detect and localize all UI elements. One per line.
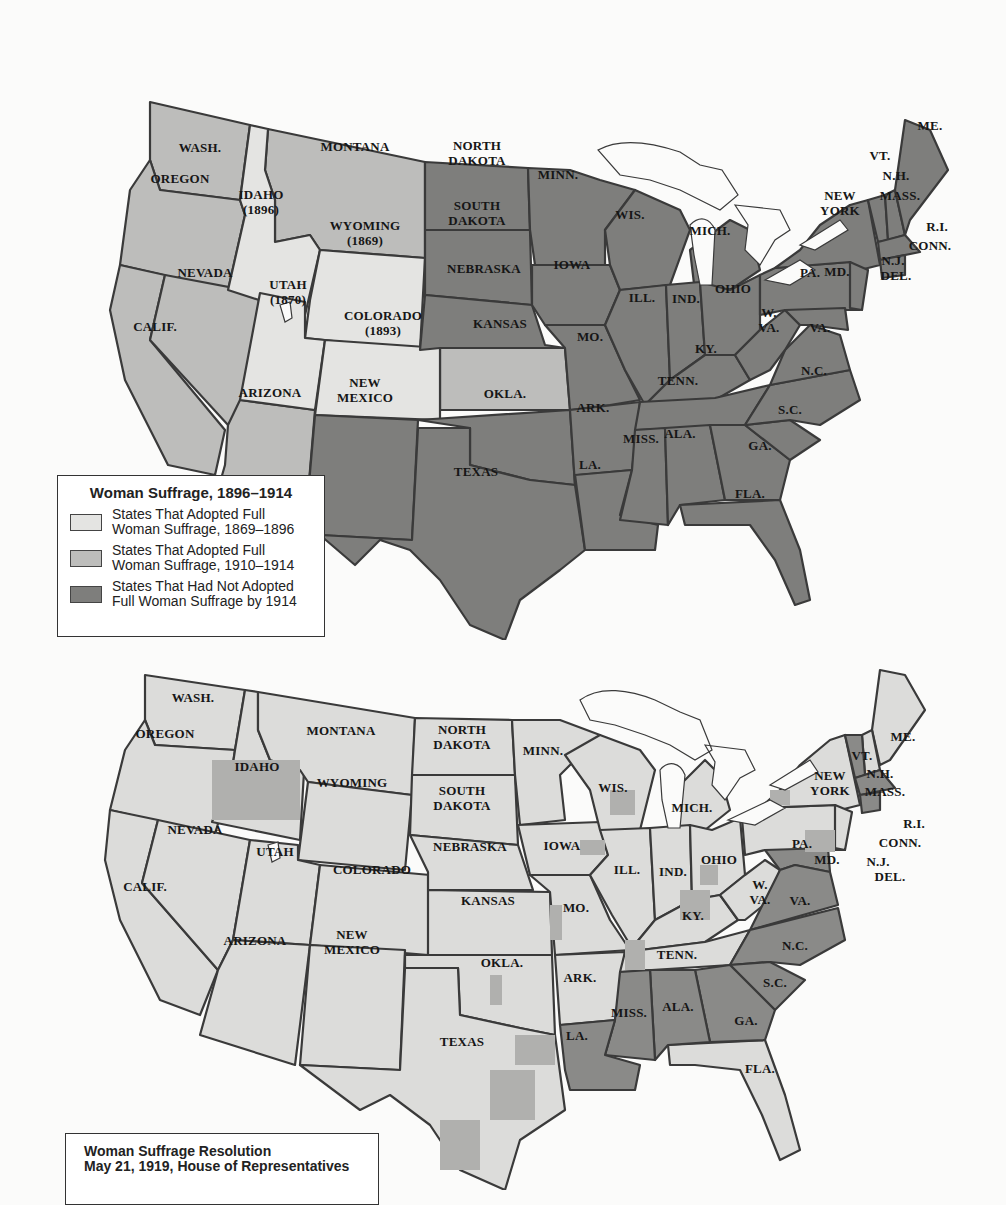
legend-suffrage-1896-1914: Woman Suffrage, 1896–1914 States That Ad… xyxy=(57,475,325,637)
label-nj: N.J. xyxy=(881,253,904,268)
label-va: VA. xyxy=(810,320,831,335)
label-ga: GA. xyxy=(748,438,771,453)
label-nevada: NEVADA xyxy=(177,265,232,280)
label-nc: N.C. xyxy=(801,363,827,378)
label-sc: S.C. xyxy=(778,402,802,417)
label-ill: ILL. xyxy=(629,290,655,305)
label-tenn: TENN. xyxy=(658,373,698,388)
label-calif: CALIF. xyxy=(133,319,177,334)
label-utah: UTAH xyxy=(256,844,293,859)
label-conn: CONN. xyxy=(879,835,922,850)
label-me: ME. xyxy=(891,729,916,744)
label-texas: TEXAS xyxy=(440,1034,484,1049)
label-fla: FLA. xyxy=(735,486,765,501)
label-tenn: TENN. xyxy=(657,947,697,962)
label-new-mexico: NEWMEXICO xyxy=(324,927,380,957)
label-utah: UTAH(1870) xyxy=(269,277,306,307)
label-pa: PA. xyxy=(792,836,812,851)
label-mo: MO. xyxy=(577,329,603,344)
state-nj xyxy=(835,805,852,850)
label-south-dakota: SOUTHDAKOTA xyxy=(448,198,505,228)
label-nj: N.J. xyxy=(866,854,889,869)
label-ohio: OHIO xyxy=(701,852,737,867)
label-idaho: IDAHO(1896) xyxy=(238,187,283,217)
label-conn: CONN. xyxy=(909,238,952,253)
state-nj xyxy=(850,262,868,310)
state-me xyxy=(872,670,925,765)
label-md: MD. xyxy=(814,852,840,867)
label-ky: KY. xyxy=(682,908,704,923)
label-south-dakota: SOUTHDAKOTA xyxy=(433,783,490,813)
state-fla xyxy=(680,500,810,605)
label-ohio: OHIO xyxy=(715,281,751,296)
label-colorado: COLORADO xyxy=(333,862,411,877)
label-kansas: KANSAS xyxy=(461,893,515,908)
label-ill: ILL. xyxy=(614,862,640,877)
state-new-mexico xyxy=(300,945,405,1070)
label-montana: MONTANA xyxy=(320,139,389,154)
label-mich: MICH. xyxy=(689,223,730,238)
label-okla: OKLA. xyxy=(481,955,524,970)
legend-swatch-medium xyxy=(70,550,102,567)
label-la: LA. xyxy=(566,1028,588,1043)
label-nh: N.H. xyxy=(883,168,910,183)
label-ind: IND. xyxy=(672,291,700,306)
label-wyoming: WYOMING xyxy=(317,775,388,790)
label-new-york: NEWYORK xyxy=(820,188,860,218)
label-okla: OKLA. xyxy=(484,386,527,401)
label-new-mexico: NEWMEXICO xyxy=(337,375,393,405)
state-wyoming xyxy=(298,782,412,870)
label-del: DEL. xyxy=(881,268,912,283)
legend-title: Woman Suffrage, 1896–1914 xyxy=(58,484,324,501)
label-wyoming: WYOMING(1869) xyxy=(330,218,401,248)
label-ri: R.I. xyxy=(903,816,925,831)
label-colorado: COLORADO(1893) xyxy=(344,308,422,338)
label-vt: VT. xyxy=(870,148,891,163)
label-kansas: KANSAS xyxy=(473,316,527,331)
label-mass: MASS. xyxy=(880,188,920,203)
legend-swatch-light xyxy=(70,514,102,531)
label-new-york: NEWYORK xyxy=(810,768,850,798)
label-wva: W.VA. xyxy=(750,877,771,907)
label-texas: TEXAS xyxy=(454,464,498,479)
legend-item-1869-1896: States That Adopted FullWoman Suffrage, … xyxy=(70,507,324,537)
label-oregon: OREGON xyxy=(136,726,195,741)
label-wis: WIS. xyxy=(598,780,627,795)
label-montana: MONTANA xyxy=(306,723,375,738)
legend-item-not-adopted: States That Had Not AdoptedFull Woman Su… xyxy=(70,579,324,609)
label-nc: N.C. xyxy=(782,938,808,953)
label-pa: PA. xyxy=(800,265,820,280)
label-north-dakota: NORTHDAKOTA xyxy=(433,722,490,752)
label-wash: WASH. xyxy=(172,690,215,705)
label-wva: W.VA. xyxy=(759,305,780,335)
label-oregon: OREGON xyxy=(151,171,210,186)
label-wis: WIS. xyxy=(615,207,644,222)
label-vt: VT. xyxy=(852,748,873,763)
label-ala: ALA. xyxy=(664,426,696,441)
label-iowa: IOWA xyxy=(544,838,581,853)
label-ga: GA. xyxy=(734,1013,757,1028)
label-mo: MO. xyxy=(563,900,589,915)
label-iowa: IOWA xyxy=(554,257,591,272)
label-ky: KY. xyxy=(695,341,717,356)
label-ala: ALA. xyxy=(662,999,694,1014)
label-wash: WASH. xyxy=(179,140,222,155)
label-ark: ARK. xyxy=(577,400,610,415)
legend-title-line1: Woman Suffrage Resolution xyxy=(84,1144,378,1159)
label-me: ME. xyxy=(918,118,943,133)
state-kansas xyxy=(440,348,570,410)
label-va: VA. xyxy=(790,893,811,908)
label-nebraska: NEBRASKA xyxy=(433,839,507,854)
legend-title-line2: May 21, 1919, House of Representatives xyxy=(84,1159,378,1174)
label-idaho: IDAHO xyxy=(234,759,279,774)
label-miss: MISS. xyxy=(623,431,659,446)
label-md: MD. xyxy=(824,264,850,279)
label-ind: IND. xyxy=(659,864,687,879)
label-ark: ARK. xyxy=(564,970,597,985)
label-del: DEL. xyxy=(875,869,906,884)
label-nevada: NEVADA xyxy=(167,822,222,837)
label-ri: R.I. xyxy=(926,219,948,234)
label-arizona: ARIZONA xyxy=(239,385,302,400)
label-la: LA. xyxy=(579,457,601,472)
label-nh: N.H. xyxy=(867,766,894,781)
